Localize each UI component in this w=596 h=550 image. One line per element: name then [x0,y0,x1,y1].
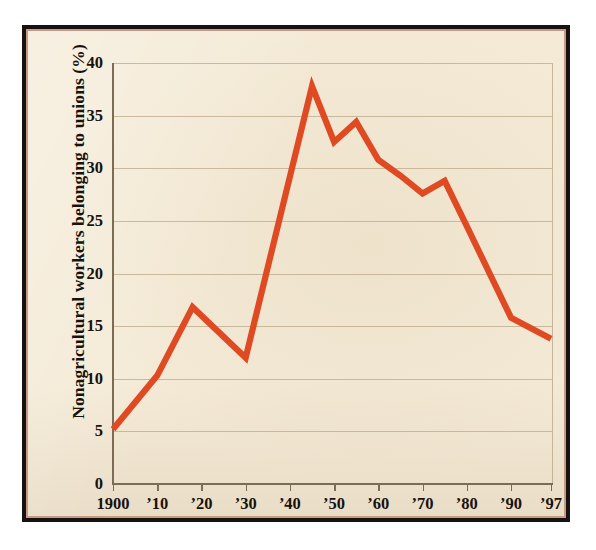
y-axis-tick-label: 25 [87,211,104,231]
x-axis-tick-mark [378,484,379,491]
x-axis-tick-label: ’40 [279,494,301,514]
y-axis-tick-label: 0 [95,474,103,494]
x-axis-tick-label: ’90 [500,494,522,514]
y-axis-tick-label: 10 [87,369,104,389]
x-axis-tick-mark [201,484,202,491]
x-axis-tick-label: ’20 [190,494,212,514]
x-axis-tick-mark [511,484,512,491]
y-axis-tick-label: 30 [87,158,104,178]
x-axis-tick-mark [157,484,158,491]
y-axis-title: Nonagricultural workers belonging to uni… [68,32,89,432]
x-axis-tick-label: ’30 [235,494,257,514]
line-series-svg [113,63,552,484]
chart-figure-frame: Nonagricultural workers belonging to uni… [22,25,570,522]
x-axis-tick-mark [423,484,424,491]
x-axis-tick-label: ’10 [146,494,168,514]
x-axis-tick-label: 1900 [97,494,130,514]
y-axis-tick-label: 35 [87,106,104,126]
union-membership-line [113,86,551,429]
x-axis-tick-label: ’70 [412,494,434,514]
chart-inner-frame: Nonagricultural workers belonging to uni… [26,29,566,518]
x-axis-tick-label: ’60 [367,494,389,514]
plot-area: 0510152025303540 1900’10’20’30’40’50’60’… [113,63,552,484]
x-axis-tick-mark [113,484,114,491]
x-axis-tick-mark [290,484,291,491]
x-axis-tick-label: ’97 [540,494,562,514]
y-axis-tick-label: 40 [87,53,104,73]
x-axis-tick-mark [334,484,335,491]
x-axis-tick-mark [551,484,552,491]
y-axis-tick-label: 15 [87,316,104,336]
y-axis-tick-label: 20 [87,264,104,284]
y-axis-tick-label: 5 [95,421,103,441]
x-axis-tick-mark [246,484,247,491]
x-axis-tick-label: ’80 [456,494,478,514]
x-axis-tick-mark [467,484,468,491]
x-axis-tick-label: ’50 [323,494,345,514]
